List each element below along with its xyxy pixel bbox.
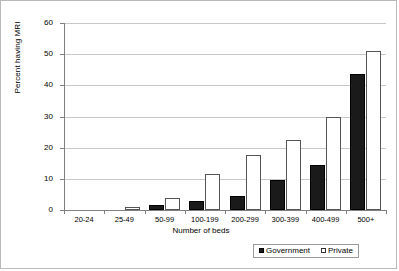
bar-government	[189, 201, 204, 210]
bar-private	[165, 198, 180, 210]
bar-private	[286, 140, 301, 210]
bar-government	[310, 165, 325, 210]
bar-government	[149, 205, 164, 210]
x-axis-tick	[265, 210, 266, 214]
bar-private	[326, 117, 341, 211]
x-axis-tick	[104, 210, 105, 214]
legend-label-government: Government	[266, 246, 310, 255]
y-axis-tick-label: 60	[13, 18, 53, 27]
x-axis-tick	[306, 210, 307, 214]
x-axis-tick-label: 500+	[336, 215, 396, 224]
bar-government	[350, 74, 365, 210]
chart-container: Percent having MRI 0102030405060 20-2425…	[0, 0, 397, 269]
x-axis-tick	[185, 210, 186, 214]
x-axis-tick	[386, 210, 387, 214]
x-axis-tick	[225, 210, 226, 214]
plot-area	[64, 23, 386, 210]
bar-private	[205, 174, 220, 210]
legend-swatch-government-icon	[259, 248, 264, 253]
legend-swatch-private-icon	[321, 248, 326, 253]
bar-government	[230, 196, 245, 210]
bar-government	[270, 180, 285, 210]
bar-private	[246, 155, 261, 210]
y-axis-tick-label: 10	[13, 174, 53, 183]
x-axis-tick	[346, 210, 347, 214]
bar-private	[366, 51, 381, 210]
bar-private	[125, 207, 140, 210]
y-axis-tick-label: 30	[13, 112, 53, 121]
y-axis-tick-label: 40	[13, 80, 53, 89]
legend-entry-private: Private	[321, 246, 353, 255]
chart-legend: Government Private	[253, 244, 359, 258]
legend-label-private: Private	[328, 246, 353, 255]
x-axis-tick	[145, 210, 146, 214]
x-axis-title: Number of beds	[121, 226, 281, 235]
y-axis-tick-label: 20	[13, 143, 53, 152]
legend-entry-government: Government	[259, 246, 310, 255]
y-axis-tick-label: 50	[13, 49, 53, 58]
y-axis-tick-label: 0	[13, 205, 53, 214]
x-axis-tick	[64, 210, 65, 214]
